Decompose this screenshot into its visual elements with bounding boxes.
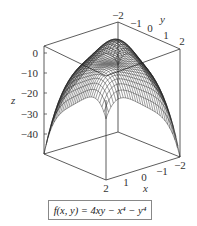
z-axis: 0 −10 −20 −30 −40 z [10,47,47,140]
svg-text:0: 0 [33,47,39,59]
svg-text:1: 1 [123,176,129,188]
z-axis-label: z [10,94,16,106]
svg-text:−1: −1 [130,17,142,29]
formula-label: f(x, y) = 4xy − x⁴ − y⁴ [48,200,152,220]
svg-text:0: 0 [147,22,153,34]
x-axis: 2 1 0 −1 −2 x [103,159,186,194]
x-axis-label: x [142,182,148,194]
surface-plot: 0 −10 −20 −30 −40 z −2 −1 0 1 2 y 2 1 0 … [0,0,197,226]
svg-text:−30: −30 [21,108,39,120]
y-axis-label: y [159,13,165,25]
svg-text:−40: −40 [21,128,39,140]
svg-text:1: 1 [163,29,169,41]
svg-text:−2: −2 [174,159,186,171]
svg-text:−2: −2 [112,9,124,21]
svg-text:−20: −20 [21,87,39,99]
svg-text:2: 2 [103,182,109,194]
svg-text:2: 2 [179,35,185,47]
svg-text:−10: −10 [21,67,39,79]
svg-text:−1: −1 [156,165,168,177]
